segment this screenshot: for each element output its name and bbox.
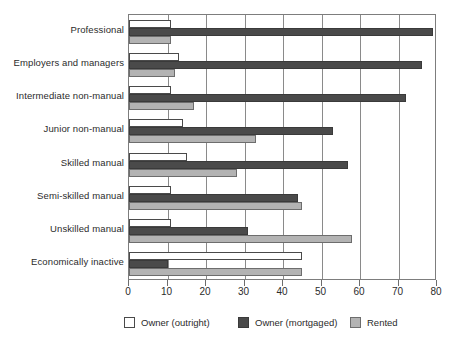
bar-group xyxy=(129,115,435,148)
bar-mortgaged xyxy=(129,127,333,135)
bar-outright xyxy=(129,219,171,227)
y-axis-label: Unskilled manual xyxy=(50,223,124,234)
x-axis-tick-label: 80 xyxy=(430,286,441,297)
bar-outright xyxy=(129,53,179,61)
x-axis-tick-label: 60 xyxy=(353,286,364,297)
x-axis-tick-label: 0 xyxy=(125,286,131,297)
bar-outright xyxy=(129,86,171,94)
bar-outright xyxy=(129,119,183,127)
bar-mortgaged xyxy=(129,227,248,235)
bar-mortgaged xyxy=(129,94,406,102)
bar-group xyxy=(129,215,435,248)
bar-group xyxy=(129,181,435,214)
bar-group xyxy=(129,48,435,81)
y-axis-label: Semi-skilled manual xyxy=(37,190,124,201)
y-axis-label: Junior non-manual xyxy=(44,123,124,134)
x-axis-labels: 01020304050607080 xyxy=(0,286,454,302)
y-axis-labels: ProfessionalEmployers and managersInterm… xyxy=(0,14,124,280)
x-axis-tick-label: 40 xyxy=(276,286,287,297)
bar-outright xyxy=(129,153,187,161)
x-axis-tick-label: 10 xyxy=(161,286,172,297)
bar-rented xyxy=(129,135,256,143)
plot-area xyxy=(128,14,436,280)
x-axis-tick-label: 20 xyxy=(199,286,210,297)
bar-outright xyxy=(129,252,302,260)
bar-group xyxy=(129,15,435,48)
y-axis-label: Economically inactive xyxy=(31,256,124,267)
bar-rented xyxy=(129,202,302,210)
bar-rented xyxy=(129,36,171,44)
bar-group xyxy=(129,248,435,281)
legend-item[interactable]: Owner (mortgaged) xyxy=(238,317,337,328)
x-axis-tick-label: 70 xyxy=(392,286,403,297)
bar-outright xyxy=(129,186,171,194)
bar-chart-figure: ProfessionalEmployers and managersInterm… xyxy=(0,0,454,345)
y-axis-label: Employers and managers xyxy=(14,57,124,68)
y-axis-label: Skilled manual xyxy=(61,157,124,168)
bar-rented xyxy=(129,69,175,77)
legend-swatch-rented-icon xyxy=(350,317,361,328)
legend-label: Owner (outright) xyxy=(141,317,210,328)
bar-outright xyxy=(129,20,171,28)
bar-mortgaged xyxy=(129,61,422,69)
bar-group xyxy=(129,148,435,181)
y-axis-label: Intermediate non-manual xyxy=(16,90,124,101)
x-axis-tick-label: 50 xyxy=(315,286,326,297)
legend-swatch-outright-icon xyxy=(124,317,135,328)
bar-rented xyxy=(129,169,237,177)
legend-swatch-mortgaged-icon xyxy=(238,317,249,328)
legend-label: Owner (mortgaged) xyxy=(255,317,337,328)
bar-rows xyxy=(129,15,435,279)
legend-label: Rented xyxy=(367,317,398,328)
bar-mortgaged xyxy=(129,161,348,169)
bar-rented xyxy=(129,268,302,276)
bar-group xyxy=(129,82,435,115)
y-axis-label: Professional xyxy=(71,24,124,35)
chart-legend: Owner (outright)Owner (mortgaged)Rented xyxy=(0,312,454,332)
bar-mortgaged xyxy=(129,28,433,36)
legend-item[interactable]: Rented xyxy=(350,317,398,328)
legend-item[interactable]: Owner (outright) xyxy=(124,317,210,328)
bar-mortgaged xyxy=(129,260,168,268)
x-axis-tick-label: 30 xyxy=(238,286,249,297)
bar-mortgaged xyxy=(129,194,298,202)
bar-rented xyxy=(129,235,352,243)
bar-rented xyxy=(129,102,194,110)
